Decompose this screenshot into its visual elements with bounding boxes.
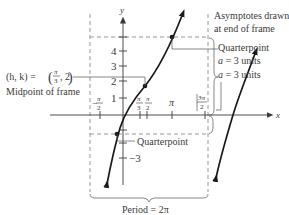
y-tick-1: 1 [111, 92, 117, 104]
svg-text:3: 3 [137, 104, 141, 112]
midpoint-formula: (h, k) = ( π 3 , 2 ) [6, 68, 73, 86]
period-label: Period = 2π [122, 204, 169, 215]
svg-text:3: 3 [54, 77, 58, 85]
x-tick-pi: π [169, 97, 175, 108]
svg-text:π: π [146, 95, 150, 103]
a-brace-lower [209, 116, 213, 134]
lower-quarterpoint-leader [117, 134, 135, 141]
x-axis-label: x [275, 110, 280, 120]
a-label-2: a = 3 units [218, 69, 261, 80]
midpoint-leader [73, 77, 145, 86]
y-tick-4: 4 [111, 45, 117, 57]
x-tick-3pi-over-2: 3π 2 [197, 94, 207, 111]
x-tick-pi-over-3: π 3 [136, 95, 143, 112]
svg-text:2: 2 [97, 104, 101, 112]
svg-text:(h, k) =: (h, k) = [6, 71, 36, 83]
a-brace-upper [209, 38, 218, 115]
lower-quarterpoint-label: Quarterpoint [137, 136, 188, 147]
a-label-1: a = 3 units [218, 55, 261, 66]
x-tick-neg-pi-over-2: − π 2 [92, 95, 103, 112]
period-brace [90, 194, 208, 202]
asymptotes-label-line1: Asymptotes drawn [214, 10, 289, 21]
a-lower-bracket [216, 82, 221, 110]
upper-quarterpoint-label: Quarterpoint [218, 42, 269, 53]
svg-text:2: 2 [200, 103, 204, 111]
svg-text:2: 2 [146, 104, 150, 112]
svg-text:(: ( [48, 70, 53, 86]
y-tick-neg3: −3 [129, 152, 141, 164]
x-tick-pi-over-2: π 2 [145, 95, 152, 112]
tangent-frame-diagram: x y 4 3 2 1 −3 − π 2 π 3 π 2 [0, 0, 289, 215]
y-axis-label: y [119, 5, 124, 15]
y-tick-3: 3 [111, 60, 117, 72]
svg-text:): ) [68, 70, 73, 86]
midpoint-caption: Midpoint of frame [6, 86, 80, 97]
asymptotes-label-line2: at end of frame [214, 23, 275, 34]
upper-quarterpoint-leader [172, 37, 218, 49]
svg-text:3π: 3π [197, 94, 206, 102]
svg-text:π: π [97, 95, 101, 103]
svg-text:π: π [54, 68, 58, 76]
